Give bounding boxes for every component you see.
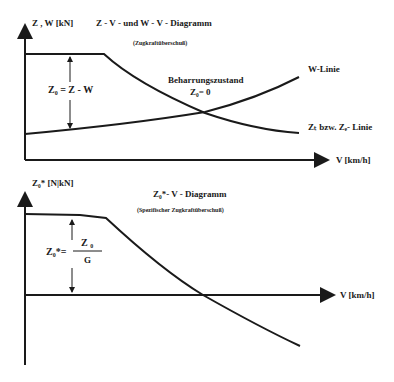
fraction-denominator: G	[84, 255, 91, 265]
fraction-numerator: Z ₀	[81, 237, 93, 248]
bottom-y-axis-label: Z₀* [N|kN]	[32, 178, 73, 188]
top-equation: Z₀ = Z - W	[48, 84, 93, 95]
steady-state-equation: Z₀= 0	[190, 87, 211, 97]
w-line-label: W-Linie	[308, 64, 340, 74]
bottom-x-axis-label: V [km/h]	[340, 290, 375, 300]
bottom-diagram: Z₀* [N|kN] Z₀*- V - Diagramm (Spezifisch…	[25, 178, 375, 365]
diagram-canvas: Z , W [kN] Z - V - und W - V - Diagramm …	[0, 0, 394, 382]
steady-state-label: Beharrungszustand	[168, 75, 244, 85]
top-diagram: Z , W [kN] Z - V - und W - V - Diagramm …	[25, 18, 372, 165]
bottom-equation-lhs: Z₀*=	[46, 246, 67, 257]
top-y-axis-label: Z , W [kN]	[32, 18, 73, 28]
specific-excess-curve	[25, 214, 300, 346]
bottom-subtitle: (Spezifischer Zugkraftüberschuß)	[137, 207, 224, 214]
top-x-axis-label: V [km/h]	[336, 155, 371, 165]
z-line-label: Zₜ bzw. Zₑ- Linie	[308, 122, 372, 132]
top-title: Z - V - und W - V - Diagramm	[96, 18, 212, 28]
bottom-title: Z₀*- V - Diagramm	[153, 189, 227, 199]
top-subtitle: (Zugkraftüberschuß)	[133, 40, 187, 47]
